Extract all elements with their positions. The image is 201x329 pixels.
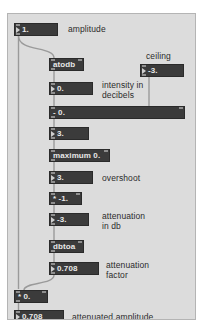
- inlet-nub: [51, 83, 55, 85]
- inlet-nub: [16, 311, 20, 313]
- inlet-nub: [51, 172, 55, 174]
- attenuation-factor-value: 0.708: [57, 263, 78, 274]
- outlet-nub: [51, 137, 55, 139]
- outlet-nub: [51, 68, 55, 70]
- overshoot-value: 3.: [57, 172, 64, 183]
- outlet-nub: [51, 202, 55, 204]
- ceiling-number-box[interactable]: -3.: [140, 64, 184, 77]
- outlet-nub: [51, 223, 55, 225]
- comment-intensity-in-decibels: intensity in decibels: [102, 80, 143, 100]
- inlet-nub: [104, 150, 108, 152]
- comment-attenuation-factor: attenuation factor: [106, 260, 149, 280]
- decibels-value: 0.: [57, 83, 64, 94]
- inlet-nub: [51, 128, 55, 130]
- number-box-triangle-icon: [51, 86, 55, 92]
- inlet-nub: [51, 193, 55, 195]
- inlet-nub: [78, 241, 82, 243]
- overshoot-number-box[interactable]: 3.: [49, 171, 93, 184]
- outlet-nub: [51, 250, 55, 252]
- comment-attenuated-amplitude: attenuated amplitude: [72, 312, 153, 320]
- subtract-object-box[interactable]: - 0.: [49, 106, 185, 119]
- comment-amplitude: amplitude: [68, 24, 106, 34]
- outlet-nub: [51, 116, 55, 118]
- ceiling-value: -3.: [148, 65, 158, 76]
- maximum-label: maximum 0.: [53, 150, 100, 161]
- attenuation-db-number-box[interactable]: -3.: [49, 213, 89, 226]
- number-box-triangle-icon: [16, 27, 20, 33]
- multiply-neg1-object-box[interactable]: * -1.: [49, 192, 82, 205]
- decibels-number-box[interactable]: 0.: [49, 82, 93, 95]
- inlet-nub: [51, 263, 55, 265]
- three-number-box[interactable]: 3.: [49, 127, 89, 140]
- inlet-nub: [42, 291, 46, 293]
- amplitude-value: 1.: [22, 24, 29, 35]
- number-box-triangle-icon: [51, 217, 55, 223]
- attenuation-db-value: -3.: [57, 214, 67, 225]
- outlet-nub: [51, 272, 55, 274]
- inlet-nub: [179, 107, 183, 109]
- inlet-nub: [51, 150, 55, 152]
- outlet-nub: [51, 92, 55, 94]
- attenuated-amplitude-value: 0.708: [22, 311, 43, 320]
- atodb-label: atodb: [53, 59, 75, 70]
- inlet-nub: [142, 65, 146, 67]
- number-box-triangle-icon: [51, 175, 55, 181]
- attenuated-amplitude-number-box[interactable]: 0.708: [14, 310, 64, 320]
- patcher-canvas[interactable]: 1. amplitude ceiling -3. atodb 0. intens…: [7, 13, 196, 320]
- number-box-triangle-icon: [16, 314, 20, 320]
- outlet-nub: [51, 181, 55, 183]
- dbtoa-object-box[interactable]: dbtoa: [49, 240, 84, 253]
- inlet-nub: [78, 59, 82, 61]
- multiply-neg1-label: * -1.: [53, 193, 68, 204]
- inlet-nub: [51, 214, 55, 216]
- comment-overshoot: overshoot: [102, 173, 140, 183]
- outlet-nub: [16, 33, 20, 35]
- attenuation-factor-number-box[interactable]: 0.708: [49, 262, 99, 275]
- multiply-object-box[interactable]: * 0.: [14, 290, 48, 303]
- outlet-nub: [51, 159, 55, 161]
- number-box-triangle-icon: [51, 131, 55, 137]
- amplitude-number-box[interactable]: 1.: [14, 23, 58, 36]
- atodb-object-box[interactable]: atodb: [49, 58, 84, 71]
- cord-factor-to-multiply: [24, 275, 54, 290]
- comment-attenuation-in-db: attenuation in db: [102, 211, 145, 231]
- inlet-nub: [51, 107, 55, 109]
- inlet-nub: [16, 24, 20, 26]
- outlet-nub: [142, 74, 146, 76]
- dbtoa-label: dbtoa: [53, 241, 75, 252]
- number-box-triangle-icon: [51, 266, 55, 272]
- inlet-nub: [51, 241, 55, 243]
- inlet-nub: [76, 193, 80, 195]
- three-value: 3.: [57, 128, 64, 139]
- inlet-nub: [51, 59, 55, 61]
- number-box-triangle-icon: [142, 68, 146, 74]
- cord-amplitude-to-atodb: [19, 36, 55, 58]
- inlet-nub: [16, 291, 20, 293]
- maximum-object-box[interactable]: maximum 0.: [49, 149, 110, 162]
- comment-ceiling: ceiling: [146, 51, 171, 61]
- outlet-nub: [16, 300, 20, 302]
